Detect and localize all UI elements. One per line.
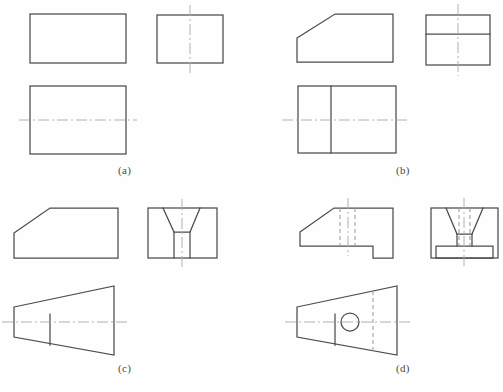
panel-b-views bbox=[252, 0, 503, 196]
panel-d-side-view-base-plate bbox=[436, 246, 493, 258]
panel-c-front-view bbox=[14, 208, 118, 258]
panel-c-side-view bbox=[148, 208, 217, 258]
panel-c-caption: (c) bbox=[118, 362, 131, 374]
panel-d-views bbox=[252, 196, 503, 392]
panel-b-top-view bbox=[298, 86, 396, 153]
panel-b bbox=[252, 0, 503, 196]
panel-d bbox=[252, 196, 503, 392]
drawing-sheet: (a) (b) bbox=[0, 0, 503, 392]
panel-a-front-view bbox=[30, 14, 126, 63]
panel-c-side-view-groove bbox=[163, 208, 200, 232]
panel-b-caption: (b) bbox=[396, 164, 410, 176]
panel-c-top-view bbox=[14, 286, 114, 355]
panel-d-front-view bbox=[300, 208, 393, 258]
panel-d-top-view bbox=[297, 286, 397, 355]
panel-d-caption: (d) bbox=[396, 362, 410, 374]
panel-b-front-view bbox=[297, 14, 393, 62]
panel-d-side-view-dovetail bbox=[446, 208, 483, 234]
panel-a-caption: (a) bbox=[118, 164, 131, 176]
panel-d-side-view bbox=[431, 208, 498, 258]
